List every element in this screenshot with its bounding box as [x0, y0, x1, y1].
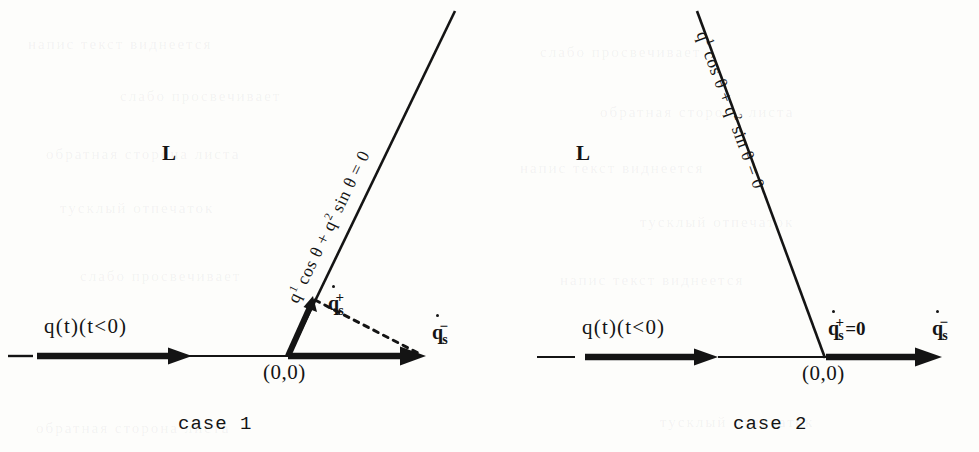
trajectory-label: q(t)(t<0) — [582, 317, 665, 338]
trajectory-arrow-head — [168, 348, 192, 365]
qs-minus-q-glyph: q — [932, 317, 943, 340]
origin-label: (0,0) — [263, 362, 306, 383]
label-qs-plus: qs+=0 — [828, 314, 865, 344]
case-1-vector-diagram — [0, 0, 489, 452]
origin-label: (0,0) — [802, 363, 845, 384]
caption-case-2: case 2 — [733, 415, 807, 434]
overdot-icon — [832, 310, 835, 313]
panel-case-1: L q1 cos θ + q2 sin θ = 0 q(t)(t<0) (0,0… — [0, 0, 489, 452]
label-qs-plus: qs+ — [328, 289, 344, 319]
region-label-L: L — [576, 143, 590, 164]
caption-case-1: case 1 — [178, 415, 252, 434]
qs-plus-q-glyph: q — [828, 317, 839, 340]
region-label-L: L — [162, 143, 176, 164]
trajectory-arrow-head — [694, 349, 718, 366]
label-qs-minus: qs− — [432, 318, 448, 348]
qs-minus-q-glyph: q — [432, 321, 443, 344]
trajectory-label: q(t)(t<0) — [44, 316, 127, 337]
case-2-vector-diagram — [490, 0, 979, 452]
label-qs-minus: qs− — [932, 314, 948, 344]
overdot-icon — [436, 314, 439, 317]
vector-qs-minus-head — [915, 348, 942, 367]
vector-qs-plus-shaft — [288, 307, 310, 356]
qs-plus-value: =0 — [845, 318, 865, 339]
overdot-icon — [332, 285, 335, 288]
panel-case-2: L q1 cos θ + q2 sin θ = 0 q(t)(t<0) (0,0… — [490, 0, 979, 452]
overdot-icon — [936, 310, 939, 313]
qs-plus-q-glyph: q — [328, 292, 339, 315]
figure-canvas: напис текст виднеется слабо просвечивает… — [0, 0, 979, 452]
